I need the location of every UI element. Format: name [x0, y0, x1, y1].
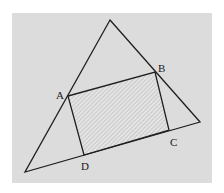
label-vertex-a: A — [56, 89, 64, 101]
label-vertex-b: B — [158, 62, 165, 74]
label-vertex-d: D — [81, 160, 89, 172]
label-vertex-c: C — [170, 136, 177, 148]
geometry-diagram: A B C D — [0, 0, 224, 193]
